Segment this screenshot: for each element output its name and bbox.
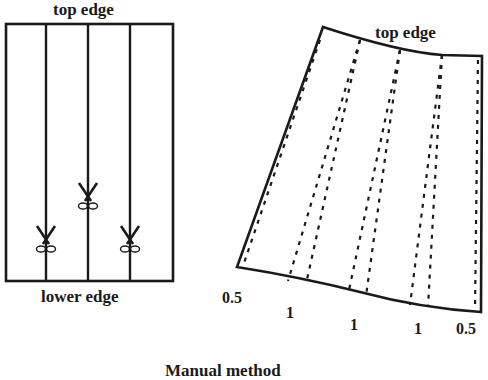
dashed-line: [288, 40, 360, 281]
spread-label-right: 0.5: [456, 321, 476, 337]
dashed-line: [366, 50, 400, 296]
left-lower-edge-label: lower edge: [41, 288, 119, 305]
dashed-line: [306, 40, 360, 284]
dashed-line: [410, 55, 442, 305]
dashed-line: [349, 50, 400, 290]
left-top-edge-label: top edge: [53, 1, 114, 18]
spread-label-2: 1: [350, 317, 358, 333]
right-top-edge-label: top edge: [375, 24, 436, 41]
dashed-line: [428, 55, 442, 307]
dashed-right-edge: [475, 60, 478, 310]
left-pattern: [6, 24, 173, 281]
left-pattern-outline: [6, 24, 173, 281]
spread-label-left: 0.5: [222, 290, 242, 306]
right-pattern: [237, 27, 482, 312]
right-pattern-outline: [237, 27, 482, 312]
spread-label-1: 1: [286, 305, 294, 321]
dashed-left-edge: [243, 40, 320, 266]
figure-caption: Manual method: [165, 362, 281, 379]
spread-label-3: 1: [414, 321, 422, 337]
